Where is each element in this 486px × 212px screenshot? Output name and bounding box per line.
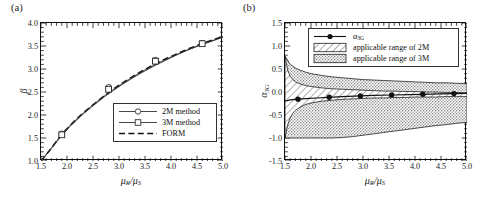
x-tick-label: 2.5 <box>88 162 98 171</box>
x-tick-label: 2.0 <box>62 162 72 171</box>
panel-b: (b) <box>243 0 486 212</box>
x-tick-label: 1.5 <box>36 162 46 171</box>
open-square-line-icon <box>118 117 158 128</box>
legend-label-alpha3g: α3G <box>351 32 364 41</box>
x-tick-label: 4.0 <box>166 162 176 171</box>
x-tick-label: 1.5 <box>280 162 290 171</box>
panel-a-x-axis-title: μR/μS <box>121 175 141 186</box>
x-tick-label: 3.0 <box>358 162 368 171</box>
dots-swatch-icon <box>313 53 347 64</box>
y-tick-label: 1.5 <box>28 134 38 143</box>
dashed-line-icon <box>118 128 158 139</box>
y-tick-label: 2.0 <box>28 111 38 120</box>
y-tick-label: 4.0 <box>28 19 38 28</box>
legend-label-form: FORM <box>158 129 185 138</box>
marker-open-square <box>199 41 205 47</box>
series-3m-line <box>41 37 223 161</box>
y-tick-label: -0.5 <box>269 111 282 120</box>
marker-filled-circle <box>420 92 425 97</box>
panel-b-y-axis-title-alpha: α <box>258 93 269 98</box>
y-tick-label: 0.5 <box>272 65 282 74</box>
legend-label-range-2m: applicable range of 2M <box>351 43 429 52</box>
x-tick-label: 5.0 <box>462 162 472 171</box>
y-tick-label: 1.0 <box>272 42 282 51</box>
legend-label-3m-method: 3M method <box>158 118 200 127</box>
x-tick-label: 3.5 <box>140 162 150 171</box>
legend-key-alpha3g <box>313 31 347 42</box>
y-tick-label: 3.0 <box>28 65 38 74</box>
panel-a-tag: (a) <box>11 2 23 13</box>
legend-item-alpha3g: α3G <box>313 31 454 42</box>
hatch-swatch-icon <box>313 42 347 53</box>
legend-item-2m-method: 2M method <box>118 106 212 117</box>
x-tick-label: 3.5 <box>384 162 394 171</box>
marker-filled-circle <box>295 96 300 101</box>
marker-filled-circle <box>451 91 456 96</box>
panel-b-x-axis-title-sub-s: S <box>382 179 385 186</box>
series-form-line <box>41 36 223 161</box>
figure-container: (a) 1.01.52.02.53.03.54.0 1.52.0 <box>0 0 486 212</box>
panel-b-y-axis-title: α3G <box>258 84 269 98</box>
x-tick-label: 4.5 <box>192 162 202 171</box>
legend-key-3m-method <box>118 117 158 128</box>
legend-item-range-3m: applicable range of 3M <box>313 53 454 64</box>
panel-b-series-group <box>285 56 467 138</box>
marker-filled-circle <box>358 93 363 98</box>
y-tick-label: 1.5 <box>272 19 282 28</box>
y-tick-label: -1.0 <box>269 134 282 143</box>
panel-a-plot-area: 1.01.52.02.53.03.54.0 1.52.02.53.03.54.0… <box>40 22 222 160</box>
panel-a: (a) 1.01.52.02.53.03.54.0 1.52.0 <box>0 0 243 212</box>
y-tick-label: 2.5 <box>28 88 38 97</box>
x-tick-label: 2.0 <box>306 162 316 171</box>
filled-circle-line-icon <box>313 31 347 42</box>
legend-item-3m-method: 3M method <box>118 117 212 128</box>
panel-a-x-axis-title-sep: /μ <box>130 175 138 186</box>
y-tick-label: 3.5 <box>28 42 38 51</box>
marker-open-square <box>153 58 159 64</box>
panel-b-tag: (b) <box>243 2 255 13</box>
panel-b-plot-area: -1.5-1.0-0.50.00.51.01.5 1.52.02.53.03.5… <box>284 22 466 160</box>
legend-label-2m-method: 2M method <box>158 107 200 116</box>
legend-label-range-3m: applicable range of 3M <box>351 54 429 63</box>
legend-item-form: FORM <box>118 128 212 139</box>
series-2m-line <box>41 37 223 161</box>
panel-b-x-axis-title-sep: /μ <box>374 175 382 186</box>
x-tick-label: 4.0 <box>410 162 420 171</box>
marker-filled-circle <box>389 92 394 97</box>
panel-b-x-axis-title: μR/μS <box>365 175 385 186</box>
x-tick-label: 5.0 <box>218 162 228 171</box>
marker-filled-circle <box>327 95 332 100</box>
panel-a-x-axis-title-sub-s: S <box>138 179 141 186</box>
x-tick-label: 4.5 <box>436 162 446 171</box>
x-tick-label: 2.5 <box>332 162 342 171</box>
panel-b-y-axis-title-sub: 3G <box>263 84 270 92</box>
open-circle-line-icon <box>118 106 158 117</box>
panel-a-axes-frame: 1.01.52.02.53.03.54.0 1.52.02.53.03.54.0… <box>40 22 222 160</box>
panel-a-y-axis-title: β <box>18 89 29 94</box>
panel-a-legend: 2M method 3M method <box>113 103 217 142</box>
panel-b-axes-frame: -1.5-1.0-0.50.00.51.01.5 1.52.02.53.03.5… <box>284 22 466 160</box>
legend-key-form <box>118 128 158 139</box>
legend-item-range-2m: applicable range of 2M <box>313 42 454 53</box>
panel-a-y-axis-title-text: β <box>18 89 29 94</box>
panel-b-legend: α3G applicable range of 2M <box>308 28 459 67</box>
marker-open-square <box>106 86 112 92</box>
y-tick-label: 0.0 <box>272 88 282 97</box>
marker-open-square <box>59 132 65 138</box>
panel-a-series-group <box>41 36 223 161</box>
x-tick-label: 3.0 <box>114 162 124 171</box>
legend-key-2m-method <box>118 106 158 117</box>
legend-label-alpha3g-sub: 3G <box>357 35 364 41</box>
legend-key-range-2m <box>313 42 347 53</box>
legend-key-range-3m <box>313 53 347 64</box>
